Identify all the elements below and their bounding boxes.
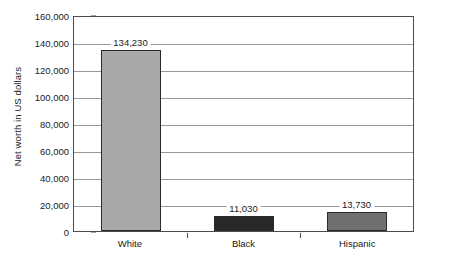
plot-area: 134,23011,03013,730 (73, 16, 414, 232)
bar-chart-figure: Net worth in US dollars 020,00040,00060,… (0, 0, 450, 254)
y-axis-tick-label: 100,000 (35, 92, 69, 103)
y-axis-tick-label: 40,000 (40, 173, 69, 184)
x-axis-tick-mark (300, 233, 301, 238)
bar-group-black: 11,030 (187, 17, 300, 231)
y-axis-tick-labels: 020,00040,00060,00080,000100,000120,0001… (22, 16, 69, 232)
bar-white[interactable] (101, 50, 161, 231)
x-axis-tick-label-black: Black (187, 233, 301, 253)
y-axis-tick-label: 20,000 (40, 200, 69, 211)
x-axis-tick-label-hispanic: Hispanic (300, 233, 414, 253)
y-axis-tick-label: 60,000 (40, 146, 69, 157)
bar-value-label-hispanic: 13,730 (339, 199, 374, 210)
x-axis-tick-labels: WhiteBlackHispanic (73, 233, 414, 253)
y-axis-tick-label: 140,000 (35, 38, 69, 49)
y-axis-tick-label: 0 (64, 227, 69, 238)
bar-value-label-white: 134,230 (110, 37, 150, 48)
bar-group-white: 134,230 (74, 17, 187, 231)
bar-group-hispanic: 13,730 (300, 17, 413, 231)
bar-hispanic[interactable] (327, 212, 387, 231)
bars-container: 134,23011,03013,730 (74, 17, 413, 231)
y-axis-tick-label: 80,000 (40, 119, 69, 130)
bar-value-label-black: 11,030 (226, 203, 260, 214)
x-axis-tick-label-white: White (73, 233, 187, 253)
y-axis-tick-label: 120,000 (35, 65, 69, 76)
y-axis-tick-label: 160,000 (35, 11, 69, 22)
bar-black[interactable] (214, 216, 274, 231)
x-axis-tick-mark (187, 233, 188, 238)
